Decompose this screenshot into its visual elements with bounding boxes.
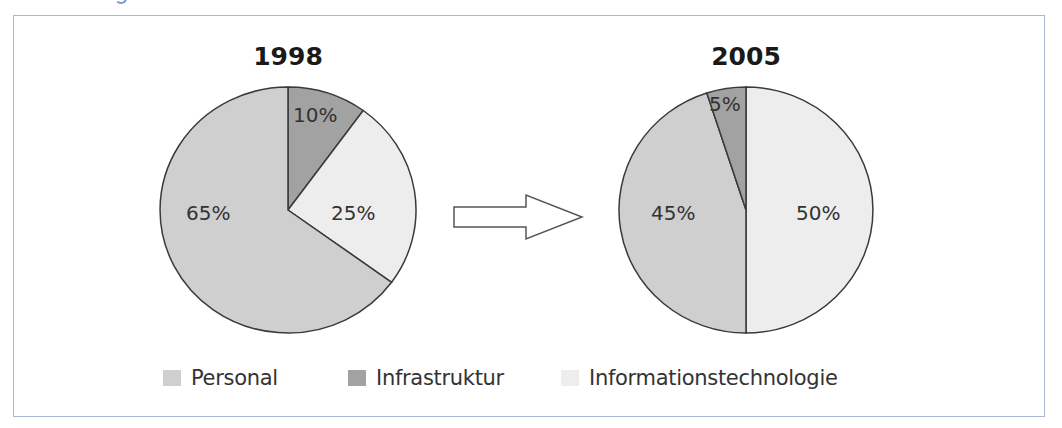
pie-1998: 10% 25% 65% [160,87,416,333]
legend-swatch-infrastruktur [348,370,366,386]
legend-item-infrastruktur: Infrastruktur [348,366,504,390]
label-2005-informationstechnologie: 50% [796,201,840,225]
legend-label-infrastruktur: Infrastruktur [376,366,504,390]
label-2005-infrastruktur: 5% [709,92,741,116]
legend-item-personal: Personal [163,366,278,390]
pie-charts-canvas: 10% 25% 65% 5% 50% 45% [0,0,1062,428]
label-2005-personal: 45% [651,201,695,225]
label-1998-informationstechnologie: 25% [331,201,375,225]
legend-label-informationstechnologie: Informationstechnologie [589,366,838,390]
legend-item-informationstechnologie: Informationstechnologie [561,366,838,390]
legend-swatch-informationstechnologie [561,370,579,386]
label-1998-infrastruktur: 10% [293,103,337,127]
transition-arrow-icon [454,195,582,239]
legend-label-personal: Personal [191,366,278,390]
pie-2005: 5% 50% 45% [619,87,873,333]
legend-swatch-personal [163,370,181,386]
label-1998-personal: 65% [186,201,230,225]
